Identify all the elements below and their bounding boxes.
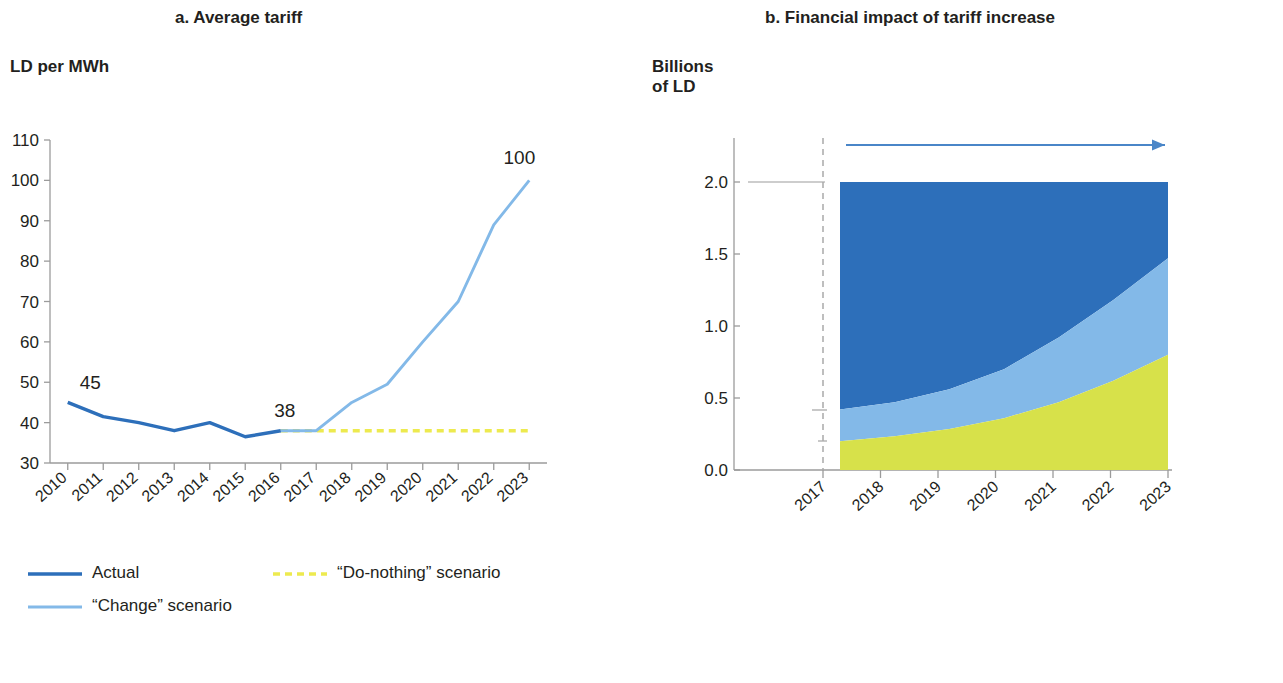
x-axis-ticks [68,463,530,470]
y-tick-label: 0.5 [704,389,728,408]
y-tick-label: 90 [20,212,39,231]
x-tick-label: 2021 [422,469,460,506]
x-tick-label: 2018 [849,478,887,515]
y-tick-label: 50 [20,373,39,392]
y-tick-label: 80 [20,252,39,271]
change-scenario-arrow [846,140,1165,151]
y-axis-ticks: 2.01.51.00.50.0 [704,173,740,480]
y-tick-label: 60 [20,333,39,352]
y-tick-label: 1.5 [704,245,728,264]
x-tick-label: 2014 [174,469,212,506]
x-tick-label: 2023 [1136,478,1174,515]
x-tick-label: 2017 [791,478,829,515]
y-tick-label: 70 [20,293,39,312]
x-tick-label: 2023 [493,469,531,506]
x-tick-label: 2020 [387,469,425,506]
x-tick-label: 2013 [138,469,176,506]
series-change [281,180,530,430]
x-tick-label: 2019 [906,478,944,515]
x-tick-label: 2019 [351,469,389,506]
x-tick-label: 2010 [32,469,70,506]
legend-label-change: “Change” scenario [92,596,232,616]
y-tick-label: 100 [11,171,39,190]
data-label: 45 [80,372,101,393]
x-axis-ticks [823,470,1168,478]
x-tick-label: 2020 [964,478,1002,515]
legend-label-do-nothing: “Do-nothing” scenario [337,563,500,583]
y-axis-ticks: 11010090807060504030 [11,131,50,473]
y-tick-label: 1.0 [704,317,728,336]
data-label: 100 [504,147,536,168]
data-label: 38 [274,400,295,421]
x-tick-label: 2015 [209,469,247,506]
panel-financial-impact: b. Financial impact of tariff increase B… [640,0,1283,683]
x-tick-label: 2022 [458,469,496,506]
y-tick-label: 2.0 [704,173,728,192]
x-tick-label: 2018 [316,469,354,506]
x-axis-tick-labels: 2010201120122013201420152016201720182019… [32,469,531,506]
y-tick-label: 110 [12,131,39,150]
x-tick-label: 2016 [245,469,283,506]
x-axis-tick-labels: 2017201820192020202120222023 [791,478,1174,515]
y-tick-label: 40 [20,414,39,433]
panel-average-tariff: a. Average tariff LD per MWh 11010090807… [0,0,640,683]
y-tick-label: 30 [20,454,39,473]
series-actual [68,402,281,436]
x-tick-label: 2017 [280,469,318,506]
x-tick-label: 2022 [1079,478,1117,515]
panel-b-chart: 2.01.51.00.50.0 201720182019202020212022… [640,0,1283,683]
x-tick-label: 2011 [68,469,105,505]
legend-label-actual: Actual [92,563,139,583]
x-tick-label: 2012 [103,469,141,506]
x-tick-label: 2021 [1021,478,1059,515]
y-tick-label: 0.0 [704,461,728,480]
